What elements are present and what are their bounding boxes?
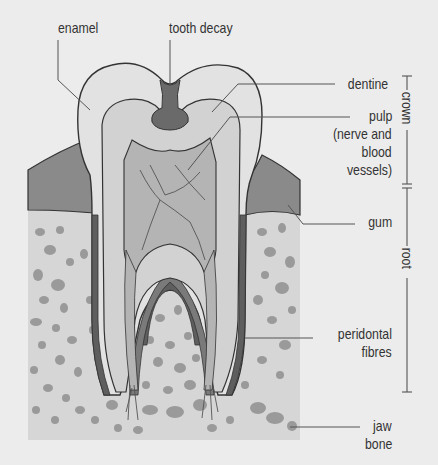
tooth-illustration [0, 0, 438, 465]
label-enamel: enamel [58, 20, 98, 36]
bracket-label-crown: crown [399, 90, 416, 126]
label-peridontal-2: fibres [362, 344, 392, 360]
label-jaw-2: bone [365, 436, 392, 452]
label-dentine: dentine [348, 76, 388, 92]
label-jaw: jaw [374, 418, 392, 434]
label-tooth-decay: tooth decay [169, 20, 233, 36]
label-pulp-2: (nerve and [333, 126, 392, 142]
label-peridontal: peridontal [338, 326, 392, 342]
bracket-label-root: root [399, 246, 416, 270]
tooth-diagram: enamel tooth decay dentine pulp (nerve a… [0, 0, 438, 465]
label-pulp: pulp [369, 108, 392, 124]
label-pulp-4: vessels) [347, 162, 392, 178]
label-gum: gum [368, 214, 392, 230]
label-pulp-3: blood [362, 144, 392, 160]
